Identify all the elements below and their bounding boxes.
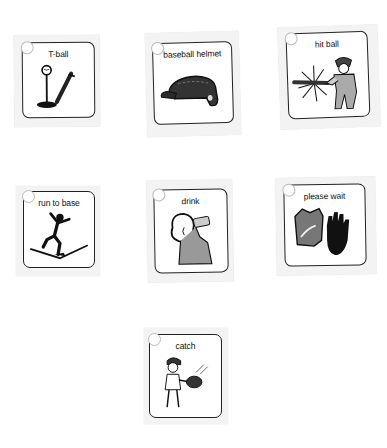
run-to-base-icon xyxy=(24,210,94,261)
card-sleeve: hit ball xyxy=(277,24,380,129)
card-label: please wait xyxy=(284,190,364,201)
card-label: catch xyxy=(150,341,221,351)
please-wait-icon xyxy=(285,202,366,259)
t-ball-icon xyxy=(23,61,94,112)
card-sleeve: baseball helmet xyxy=(145,31,242,137)
card-sleeve: drink xyxy=(146,179,234,282)
card-t-ball[interactable]: T-ball xyxy=(22,42,96,119)
drink-icon xyxy=(155,207,228,266)
card-label: T-ball xyxy=(23,49,94,60)
card-label: run to base xyxy=(24,198,94,208)
card-catch[interactable]: catch xyxy=(149,334,222,418)
baseball-helmet-icon xyxy=(153,60,232,118)
card-drink[interactable]: drink xyxy=(153,188,228,273)
card-please-wait[interactable]: please wait xyxy=(283,183,366,266)
card-label: hit ball xyxy=(287,38,367,51)
hit-ball-icon xyxy=(287,50,369,113)
card-hit-ball[interactable]: hit ball xyxy=(285,31,370,120)
card-sleeve: run to base xyxy=(16,186,100,276)
card-sleeve: T-ball xyxy=(14,35,101,128)
card-sleeve: please wait xyxy=(275,176,377,276)
card-run-to-base[interactable]: run to base xyxy=(23,191,95,268)
card-label: baseball helmet xyxy=(153,48,231,60)
catch-icon xyxy=(150,353,221,411)
card-sleeve: catch xyxy=(144,328,228,424)
card-baseball-helmet[interactable]: baseball helmet xyxy=(152,41,234,125)
card-label: drink xyxy=(154,195,226,206)
